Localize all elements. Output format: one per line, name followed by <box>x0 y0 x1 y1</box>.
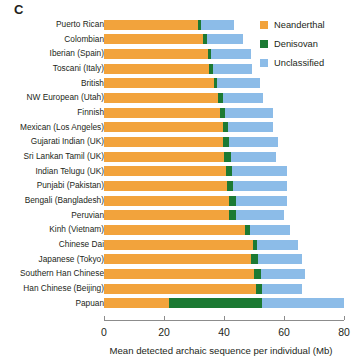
bar-segment-neanderthal <box>104 122 223 132</box>
bar-segment-neanderthal <box>104 210 229 220</box>
bar-category-label: Indian Telugu (UK) <box>0 166 104 177</box>
bar-segment-neanderthal <box>104 49 208 59</box>
x-tick-mark <box>164 316 165 321</box>
bar-segment-neanderthal <box>104 166 226 176</box>
x-tick-label: 40 <box>218 326 230 338</box>
bar-category-label: British <box>0 78 104 89</box>
stacked-bar <box>104 20 235 30</box>
chart-row: Southern Han Chinese <box>0 268 359 283</box>
bar-category-label: Toscani (Italy) <box>0 63 104 74</box>
bar-category-label: Gujarati Indian (UK) <box>0 136 104 147</box>
x-tick-label: 20 <box>158 326 170 338</box>
bar-segment-unclassified <box>258 254 302 264</box>
bar-segment-unclassified <box>262 298 345 308</box>
bar-segment-neanderthal <box>104 64 209 74</box>
bar-segment-unclassified <box>213 64 253 74</box>
x-tick-mark <box>344 316 345 321</box>
bar-segment-unclassified <box>257 240 298 250</box>
chart-row: Finnish <box>0 107 359 122</box>
x-axis-line <box>104 320 344 321</box>
stacked-bar <box>104 196 287 206</box>
bar-segment-unclassified <box>231 152 277 162</box>
chart-row: NW European (Utah) <box>0 92 359 107</box>
stacked-bar <box>104 152 277 162</box>
bar-category-label: Iberian (Spain) <box>0 48 104 59</box>
bar-segment-unclassified <box>236 196 287 206</box>
bar-category-label: Chinese Dai <box>0 239 104 250</box>
stacked-bar <box>104 225 290 235</box>
bar-segment-denisovan <box>229 196 237 206</box>
x-tick-mark <box>284 316 285 321</box>
bar-segment-unclassified <box>229 137 278 147</box>
bar-segment-unclassified <box>217 78 260 88</box>
stacked-bar <box>104 122 274 132</box>
bar-category-label: Colombian <box>0 34 104 45</box>
stacked-bar <box>104 64 253 74</box>
chart-row: Peruvian <box>0 210 359 225</box>
bar-segment-unclassified <box>201 20 235 30</box>
bar-segment-neanderthal <box>104 78 214 88</box>
legend-swatch-icon <box>260 40 268 48</box>
bar-category-label: Mexican (Los Angeles) <box>0 122 104 133</box>
bar-segment-neanderthal <box>104 225 245 235</box>
bar-segment-unclassified <box>228 122 274 132</box>
legend-item[interactable]: Neanderthal <box>260 17 325 34</box>
x-tick-label: 60 <box>278 326 290 338</box>
legend-label: Unclassified <box>274 58 324 68</box>
x-tick-mark <box>104 316 105 321</box>
stacked-bar <box>104 108 274 118</box>
bar-segment-denisovan <box>224 152 231 162</box>
bar-segment-unclassified <box>250 225 291 235</box>
bar-segment-neanderthal <box>104 152 224 162</box>
chart-row: British <box>0 78 359 93</box>
bar-category-label: Japanese (Tokyo) <box>0 254 104 265</box>
chart-legend: NeanderthalDenisovanUnclassified <box>260 17 325 74</box>
stacked-bar <box>104 240 298 250</box>
bar-category-label: Kinh (Vietnam) <box>0 224 104 235</box>
chart-row: Chinese Dai <box>0 239 359 254</box>
stacked-bar <box>104 210 284 220</box>
bar-segment-unclassified <box>232 166 288 176</box>
bar-segment-unclassified <box>223 93 264 103</box>
bar-segment-denisovan <box>229 210 237 220</box>
bar-segment-neanderthal <box>104 181 227 191</box>
bar-category-label: Punjabi (Pakistan) <box>0 180 104 191</box>
bar-segment-neanderthal <box>104 108 220 118</box>
bar-segment-unclassified <box>225 108 274 118</box>
stacked-bar <box>104 34 244 44</box>
x-tick-label: 80 <box>338 326 350 338</box>
bar-segment-neanderthal <box>104 254 251 264</box>
bar-segment-unclassified <box>261 269 305 279</box>
stacked-bar <box>104 93 263 103</box>
bar-segment-neanderthal <box>104 269 254 279</box>
bar-segment-neanderthal <box>104 93 218 103</box>
chart-row: Han Chinese (Beijing) <box>0 283 359 298</box>
chart-row: Papuan <box>0 298 359 313</box>
chart-row: Sri Lankan Tamil (UK) <box>0 151 359 166</box>
bar-segment-denisovan <box>169 298 262 308</box>
bar-segment-unclassified <box>262 284 302 294</box>
bar-category-label: NW European (Utah) <box>0 92 104 103</box>
bar-category-label: Han Chinese (Beijing) <box>0 283 104 294</box>
stacked-bar <box>104 254 302 264</box>
stacked-bar <box>104 78 260 88</box>
chart-row: Punjabi (Pakistan) <box>0 180 359 195</box>
stacked-bar <box>104 284 302 294</box>
legend-item[interactable]: Denisovan <box>260 36 325 53</box>
stacked-bar <box>104 269 305 279</box>
bar-category-label: Puerto Rican <box>0 19 104 30</box>
x-tick-mark <box>224 316 225 321</box>
bar-segment-unclassified <box>233 181 287 191</box>
stacked-bar <box>104 49 251 59</box>
legend-item[interactable]: Unclassified <box>260 55 325 72</box>
chart-row: Kinh (Vietnam) <box>0 224 359 239</box>
chart-row: Gujarati Indian (UK) <box>0 136 359 151</box>
bar-segment-denisovan <box>251 254 258 264</box>
bar-segment-neanderthal <box>104 240 253 250</box>
bar-segment-neanderthal <box>104 20 198 30</box>
stacked-bar <box>104 181 287 191</box>
bar-segment-neanderthal <box>104 284 256 294</box>
panel-label: C <box>14 2 23 17</box>
bar-segment-unclassified <box>207 34 244 44</box>
bar-category-label: Peruvian <box>0 210 104 221</box>
